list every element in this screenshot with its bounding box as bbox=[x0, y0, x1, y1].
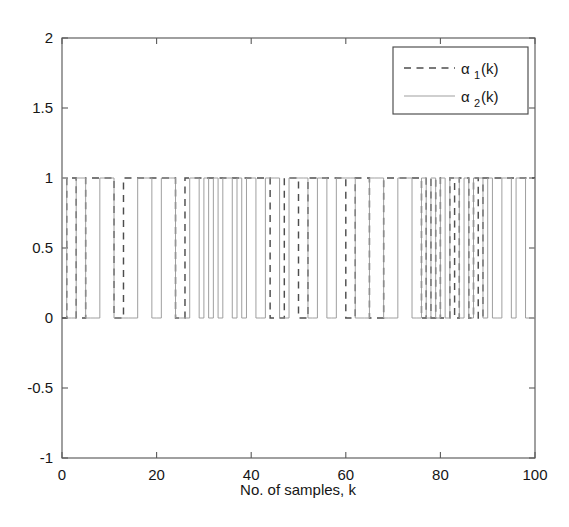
x-tick-label: 80 bbox=[432, 466, 449, 483]
legend-label-alpha2-sub: 2 bbox=[474, 97, 480, 109]
legend-label-alpha1-tail: (k) bbox=[481, 60, 499, 77]
x-tick-label: 20 bbox=[148, 466, 165, 483]
x-tick-label: 0 bbox=[58, 466, 66, 483]
y-tick-label: 0.5 bbox=[32, 239, 53, 256]
legend-label-alpha1-base: α bbox=[461, 60, 470, 77]
y-tick-label: 1 bbox=[45, 169, 53, 186]
chart-canvas: 020406080100 -1-0.500.511.52 No. of samp… bbox=[0, 0, 569, 527]
y-tick-label: 2 bbox=[45, 29, 53, 46]
y-tick-label: 1.5 bbox=[32, 99, 53, 116]
y-axis-tick-labels: -1-0.500.511.52 bbox=[27, 29, 53, 466]
chart-legend[interactable]: α 1 (k) α 2 (k) bbox=[393, 47, 528, 114]
legend-label-alpha2-base: α bbox=[461, 88, 470, 105]
figure-container: 020406080100 -1-0.500.511.52 No. of samp… bbox=[0, 0, 569, 527]
legend-label-alpha1-sub: 1 bbox=[474, 69, 480, 81]
data-series-group bbox=[62, 178, 535, 318]
x-tick-label: 100 bbox=[522, 466, 547, 483]
y-tick-label: -0.5 bbox=[27, 379, 53, 396]
legend-label-alpha2-tail: (k) bbox=[481, 88, 499, 105]
y-tick-label: 0 bbox=[45, 309, 53, 326]
y-tick-label: -1 bbox=[40, 449, 53, 466]
x-axis-title: No. of samples, k bbox=[240, 481, 356, 498]
